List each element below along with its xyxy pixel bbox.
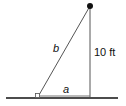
- right-angle-marker-icon: [36, 94, 40, 98]
- base-label: a: [63, 83, 69, 95]
- top-point-icon: [87, 3, 93, 9]
- hypotenuse-side: [39, 6, 90, 95]
- height-label: 10 ft: [94, 46, 115, 58]
- triangle-diagram: b a 10 ft: [0, 0, 126, 106]
- hypotenuse-label: b: [53, 42, 59, 54]
